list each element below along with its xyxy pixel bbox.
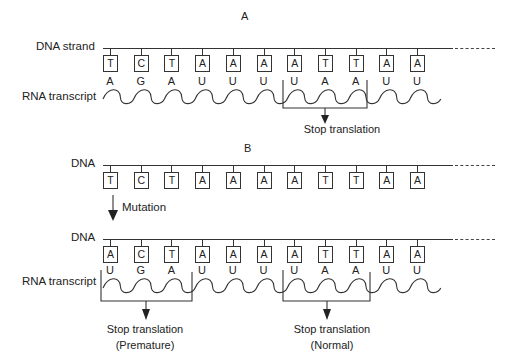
- stop-codon-bracket-premature: [101, 270, 192, 301]
- stop-arrowhead-a: [321, 115, 329, 124]
- stop-codon-bracket-a: [283, 80, 367, 108]
- mutation-arrowhead: [108, 210, 118, 221]
- stop-codon-bracket-normal: [283, 270, 370, 301]
- stop-arrowhead-normal: [323, 309, 331, 320]
- rna-wave-b: [103, 279, 441, 293]
- stop-arrowhead-premature: [142, 309, 150, 320]
- diagram-strokes: [0, 0, 511, 361]
- rna-wave-a: [103, 90, 441, 104]
